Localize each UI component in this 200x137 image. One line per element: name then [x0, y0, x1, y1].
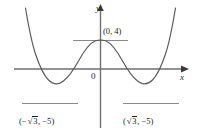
graph-figure: y x 0 (0, 4) (−√3, −5) (√3, −5) [0, 0, 200, 137]
left-minimum-label: (−√3, −5) [19, 116, 54, 126]
origin-label: 0 [91, 72, 96, 81]
right-min-radicand: 3 [132, 116, 138, 126]
left-min-radicand: 3 [32, 116, 38, 126]
y-axis-label: y [96, 4, 100, 13]
local-maximum-label: (0, 4) [103, 27, 121, 36]
left-min-close-paren: ) [51, 116, 54, 126]
right-min-y: −5 [142, 116, 151, 126]
right-minimum-label: (√3, −5) [123, 116, 153, 126]
right-min-radical: √3 [126, 116, 137, 126]
x-axis-label: x [180, 73, 184, 82]
left-min-radical: √3 [27, 116, 38, 126]
right-min-close-paren: ) [151, 116, 154, 126]
